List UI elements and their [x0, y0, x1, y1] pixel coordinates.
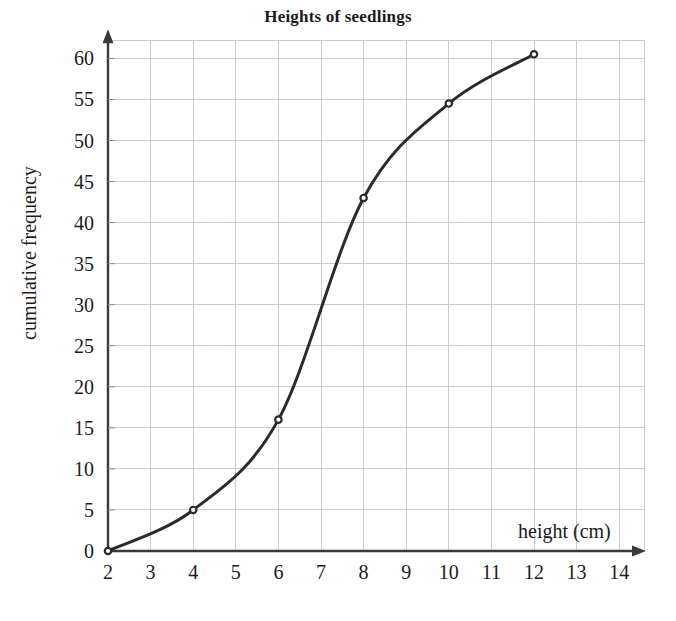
y-tick-label-60: 60 [74, 47, 94, 69]
x-tick-label-6: 6 [273, 561, 283, 583]
x-tick-label-13: 13 [567, 561, 587, 583]
y-tick-label-10: 10 [74, 458, 94, 480]
x-tick-label-2: 2 [103, 561, 113, 583]
y-tick-label-40: 40 [74, 212, 94, 234]
y-tick-label-55: 55 [74, 88, 94, 110]
data-point-10-54.5 [446, 100, 452, 106]
cumulative-frequency-plot: 051015202530354045505560 234567891011121… [0, 0, 676, 621]
y-axis-arrowhead [103, 29, 114, 43]
x-tick-label-7: 7 [316, 561, 326, 583]
data-point-8-43 [360, 195, 366, 201]
x-tick-label-3: 3 [146, 561, 156, 583]
x-tick-label-5: 5 [231, 561, 241, 583]
data-point-2-0 [105, 548, 111, 554]
x-axis-label: height (cm) [518, 520, 611, 543]
x-tick-label-10: 10 [439, 561, 459, 583]
data-point-6-16 [275, 416, 281, 422]
x-tick-label-9: 9 [401, 561, 411, 583]
y-axis-label: cumulative frequency [18, 166, 41, 340]
x-tick-label-12: 12 [524, 561, 544, 583]
horizontal-gridlines [108, 40, 645, 510]
x-axis-arrowhead [632, 546, 646, 557]
y-tick-label-15: 15 [74, 417, 94, 439]
data-point-12-60.5 [531, 51, 537, 57]
vertical-gridlines [108, 40, 645, 551]
y-tick-label-35: 35 [74, 253, 94, 275]
x-tick-label-14: 14 [609, 561, 629, 583]
y-tick-label-30: 30 [74, 294, 94, 316]
y-tick-label-45: 45 [74, 171, 94, 193]
y-tick-label-20: 20 [74, 376, 94, 398]
y-tick-label-5: 5 [84, 499, 94, 521]
chart-figure: Heights of seedlings 0510152025303540455… [0, 0, 676, 621]
y-tick-label-50: 50 [74, 130, 94, 152]
x-tick-label-11: 11 [482, 561, 501, 583]
data-point-4-5 [190, 507, 196, 513]
axes [103, 29, 647, 556]
y-tick-label-0: 0 [84, 540, 94, 562]
x-axis-tick-labels: 234567891011121314 [103, 561, 629, 583]
x-tick-label-8: 8 [359, 561, 369, 583]
y-tick-label-25: 25 [74, 335, 94, 357]
y-axis-tick-labels: 051015202530354045505560 [74, 47, 94, 562]
x-tick-label-4: 4 [188, 561, 198, 583]
